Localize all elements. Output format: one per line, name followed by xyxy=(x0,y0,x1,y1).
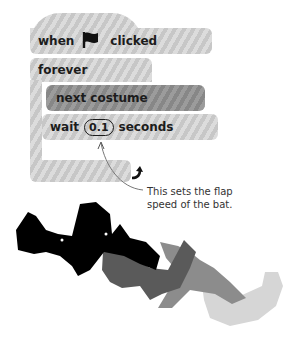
bat-animation-illustration xyxy=(0,190,284,337)
